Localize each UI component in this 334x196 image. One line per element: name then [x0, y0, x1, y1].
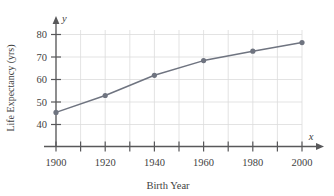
y-tick-label-60: 60	[37, 74, 48, 85]
x-axis-title: Birth Year	[146, 180, 190, 191]
x-tick-label-1920: 1920	[95, 157, 116, 168]
life-expectancy-line-chart: 40 50 60 70 80 1900 1920 1940 1960 1980 …	[0, 0, 334, 196]
x-axis-symbol: x	[308, 131, 314, 142]
y-axis-symbol: y	[61, 13, 67, 24]
x-tick-label-1900: 1900	[46, 157, 67, 168]
x-tick-label-1960: 1960	[193, 157, 214, 168]
x-tick-label-2000: 2000	[292, 157, 313, 168]
chart-figure: 40 50 60 70 80 1900 1920 1940 1960 1980 …	[0, 0, 334, 196]
x-tick-label-1980: 1980	[242, 157, 263, 168]
y-tick-label-50: 50	[37, 97, 48, 108]
y-tick-label-40: 40	[37, 119, 48, 130]
data-point-1940	[152, 73, 157, 78]
y-tick-label-80: 80	[37, 29, 48, 40]
data-point-2000	[299, 40, 304, 45]
data-point-1980	[250, 49, 255, 54]
data-point-1960	[201, 58, 206, 63]
x-tick-label-1940: 1940	[144, 157, 165, 168]
data-point-1920	[103, 93, 108, 98]
y-tick-label-70: 70	[37, 52, 48, 63]
data-point-1900	[53, 110, 58, 115]
y-axis-title: Life Expectancy (yrs)	[5, 44, 17, 131]
